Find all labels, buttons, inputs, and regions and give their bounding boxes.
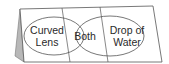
- right-label-line2: Water: [113, 36, 141, 48]
- left-label-line1: Curved: [30, 24, 64, 36]
- right-label-line1: Drop of: [110, 24, 145, 36]
- left-label-line2: Lens: [36, 36, 59, 48]
- foldable-venn-diagram: Curved Lens Both Drop of Water: [0, 0, 169, 64]
- center-label: Both: [74, 30, 96, 42]
